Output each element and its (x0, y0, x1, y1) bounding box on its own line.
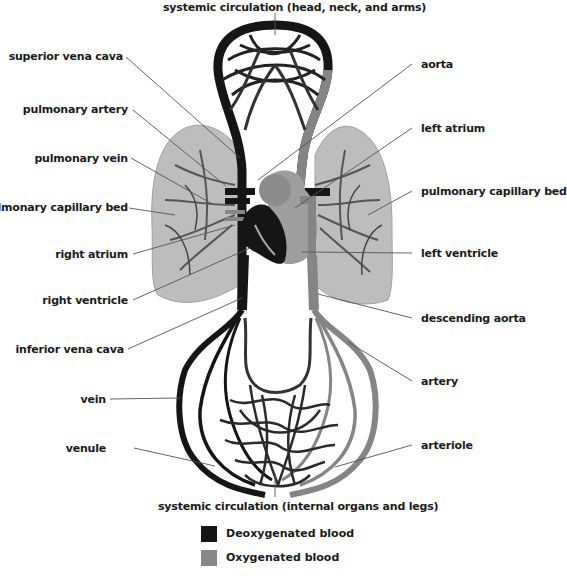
label-right-atrium: right atrium (55, 248, 128, 261)
legend-swatch-deoxygenated (201, 526, 217, 542)
title-top: systemic circulation (head, neck, and ar… (163, 1, 426, 14)
heart (238, 170, 317, 264)
label-descending-aorta: descending aorta (421, 312, 526, 325)
legend-swatch-oxygenated (201, 550, 217, 566)
label-pulmonary-capillary-bed-right: pulmonary capillary bed (421, 185, 567, 198)
label-right-ventricle: right ventricle (42, 294, 128, 307)
label-venule: venule (66, 442, 106, 455)
title-bottom: systemic circulation (internal organs an… (158, 500, 438, 513)
label-pulmonary-artery: pulmonary artery (23, 103, 128, 116)
right-lung (315, 126, 392, 304)
label-artery: artery (421, 375, 458, 388)
label-inferior-vena-cava: inferior vena cava (15, 343, 124, 356)
label-superior-vena-cava: superior vena cava (9, 50, 123, 63)
label-aorta: aorta (421, 58, 453, 71)
label-pulmonary-capillary-bed-left: pulmonary capillary bed (0, 201, 128, 214)
label-left-ventricle: left ventricle (421, 247, 498, 260)
label-left-atrium: left atrium (421, 122, 485, 135)
label-pulmonary-vein: pulmonary vein (34, 152, 128, 165)
legend-label-oxygenated: Oxygenated blood (226, 551, 339, 564)
label-arteriole: arteriole (421, 439, 473, 452)
label-vein: vein (81, 393, 106, 406)
lower-circulation-loop (179, 310, 375, 495)
legend-label-deoxygenated: Deoxygenated blood (226, 527, 354, 540)
